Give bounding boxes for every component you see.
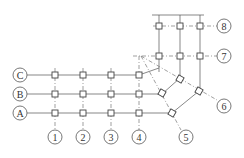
axis-bubble-8: 8	[217, 19, 231, 33]
svg-text:6: 6	[222, 101, 227, 112]
svg-text:8: 8	[222, 21, 227, 32]
svg-text:5: 5	[184, 132, 189, 143]
upper-grid-lines	[133, 15, 217, 91]
axis-bubble-1: 1	[48, 130, 62, 144]
axis-bubble-B: B	[13, 87, 27, 101]
axis-grid-diagram: C B A 1 2 3 4 5 6 7 8	[0, 0, 244, 158]
svg-text:C: C	[17, 70, 24, 81]
axis-bubble-2: 2	[76, 130, 90, 144]
svg-text:1: 1	[53, 132, 58, 143]
structural-columns	[52, 23, 203, 117]
svg-text:3: 3	[109, 132, 114, 143]
row-axis-lines	[27, 75, 172, 113]
svg-text:4: 4	[137, 132, 142, 143]
svg-text:B: B	[17, 89, 24, 100]
svg-text:7: 7	[222, 51, 227, 62]
svg-text:2: 2	[81, 132, 86, 143]
axis-bubble-3: 3	[104, 130, 118, 144]
radial-axis-lines	[139, 56, 217, 130]
axis-bubble-A: A	[13, 106, 27, 120]
axis-bubble-7: 7	[217, 49, 231, 63]
axis-bubble-C: C	[13, 68, 27, 82]
column-axis-lines	[55, 56, 139, 130]
svg-text:A: A	[16, 108, 24, 119]
axis-bubble-5: 5	[179, 130, 193, 144]
axis-bubble-6: 6	[217, 99, 231, 113]
axis-bubble-4: 4	[132, 130, 146, 144]
